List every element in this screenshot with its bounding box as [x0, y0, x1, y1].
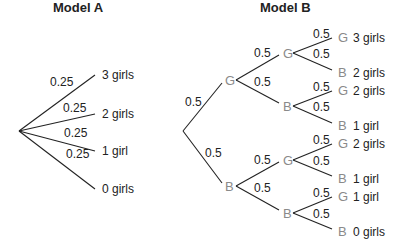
tree-node: G [338, 83, 348, 98]
model-a-title: Model A [53, 0, 104, 15]
branch-probability: 0.5 [313, 80, 330, 94]
branch-probability: 0.5 [313, 186, 330, 200]
branch-probability: 0.5 [313, 100, 330, 114]
tree-node: B [338, 118, 347, 133]
branch-probability: 0.5 [254, 181, 271, 195]
branch-probability: 0.5 [313, 154, 330, 168]
branch-probability: 0.25 [50, 75, 74, 89]
tree-diagrams: Model A 0.253 girls0.252 girls0.251 girl… [0, 0, 399, 240]
branch-probability: 0.5 [254, 46, 271, 60]
outcome-label: 2 girls [102, 107, 134, 121]
tree-node: G [225, 73, 235, 88]
tree-node: B [338, 171, 347, 186]
branch-probability: 0.5 [313, 207, 330, 221]
branch-probability: 0.5 [313, 27, 330, 41]
tree-node: B [225, 179, 234, 194]
outcome-label: 3 girls [102, 68, 134, 82]
outcome-label: 1 girl [353, 190, 379, 204]
branch-probability: 0.5 [254, 153, 271, 167]
outcome-label: 1 girl [353, 172, 379, 186]
model-a: Model A 0.253 girls0.252 girls0.251 girl… [19, 0, 134, 196]
outcome-label: 2 girls [353, 137, 385, 151]
tree-node: B [283, 206, 292, 221]
model-b-title: Model B [260, 0, 311, 15]
tree-node: B [338, 65, 347, 80]
branch-probability: 0.25 [64, 126, 88, 140]
branch-probability: 0.5 [313, 133, 330, 147]
tree-node: G [338, 136, 348, 151]
outcome-label: 2 girls [353, 66, 385, 80]
outcome-label: 3 girls [353, 31, 385, 45]
outcome-label: 1 girl [102, 144, 128, 158]
branch-probability: 0.25 [66, 147, 90, 161]
branch-probability: 0.5 [313, 47, 330, 61]
tree-node: G [338, 30, 348, 45]
model-b: Model B GB0.50.5G0.5B0.5G0.5B0.5G3 girls… [183, 0, 385, 239]
branch-probability: 0.5 [185, 95, 202, 109]
outcome-label: 1 girl [353, 119, 379, 133]
tree-node: G [283, 153, 293, 168]
branch-probability: 0.5 [205, 146, 222, 160]
outcome-label: 0 girls [353, 225, 385, 239]
tree-node: G [283, 46, 293, 61]
tree-node: G [338, 189, 348, 204]
branch-probability: 0.5 [254, 75, 271, 89]
outcome-label: 0 girls [102, 182, 134, 196]
branch-probability: 0.25 [63, 101, 87, 115]
outcome-label: 2 girls [353, 84, 385, 98]
tree-node: B [283, 99, 292, 114]
tree-node: B [338, 224, 347, 239]
